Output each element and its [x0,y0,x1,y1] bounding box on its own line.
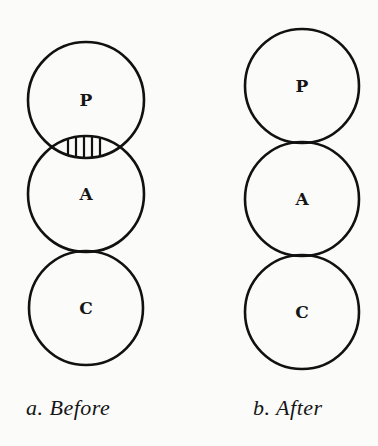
label-c-after: C [295,302,309,322]
label-a-before: A [78,184,93,204]
label-a-after: A [294,189,309,209]
label-p-before: P [80,90,93,110]
diagram-canvas: P A C P A C [0,0,378,446]
label-c-before: C [79,298,93,318]
caption-after: b. After [253,395,323,421]
caption-before: a. Before [26,395,110,421]
panel-before: P A C [28,42,144,365]
panel-after: P A C [245,29,359,369]
label-p-after: P [296,76,309,96]
